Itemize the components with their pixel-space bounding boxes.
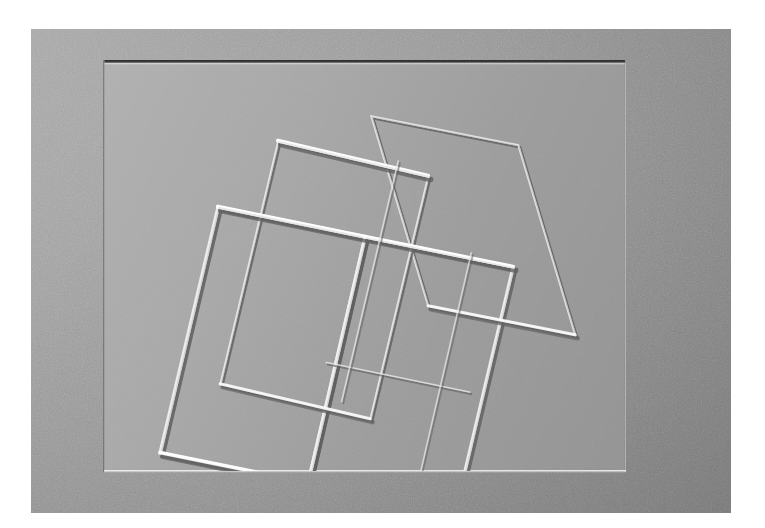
mat-margin-right xyxy=(731,0,765,528)
shape-square-lower-right xyxy=(308,237,515,471)
mat-margin-left xyxy=(0,0,31,528)
embossed-geometry xyxy=(104,63,624,471)
panel-right-edge xyxy=(624,63,626,472)
mat-margin-top xyxy=(0,0,765,29)
mat-margin-bottom xyxy=(0,513,765,528)
relief-svg xyxy=(104,63,624,471)
ridge-highlight-bars xyxy=(160,141,578,471)
artwork-root xyxy=(0,0,765,528)
shape-square-lower-left xyxy=(160,207,368,471)
paper-card xyxy=(31,29,731,513)
shape-square-upper-right xyxy=(371,116,577,337)
